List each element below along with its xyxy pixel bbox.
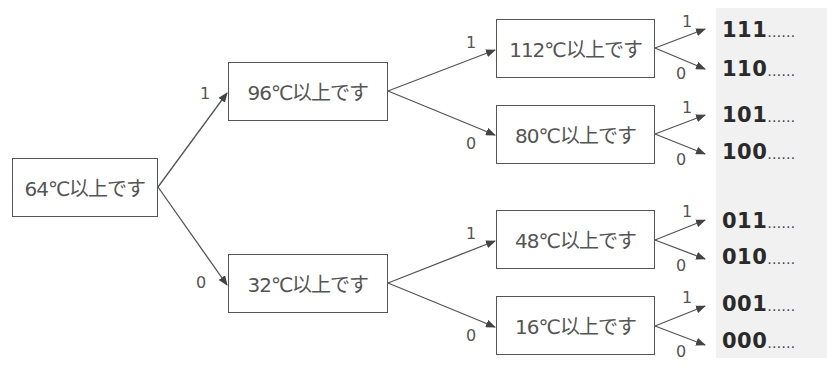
code-100: 100…… (722, 142, 795, 163)
edge-32-16 (388, 283, 495, 327)
edge-label-leaf-101: 1 (682, 98, 692, 117)
edge-32-48 (388, 241, 495, 283)
edge-label-leaf-011: 1 (682, 202, 692, 221)
edge-label-leaf-010: 0 (676, 256, 686, 275)
code-111: 111…… (722, 20, 795, 41)
code-010: 010…… (722, 247, 795, 268)
node-112: 112℃以上です (496, 19, 655, 78)
node-48: 48℃以上です (496, 210, 655, 269)
node-root-64: 64℃以上です (12, 158, 158, 217)
node-80: 80℃以上です (496, 105, 655, 164)
edge-80-101 (655, 115, 705, 134)
code-101: 101…… (722, 105, 795, 126)
edge-label-16: 0 (466, 326, 476, 345)
code-011: 011…… (722, 211, 795, 232)
edge-label-80: 0 (466, 134, 476, 153)
edge-label-leaf-100: 0 (676, 150, 686, 169)
edge-96-112 (388, 50, 495, 91)
code-000: 000…… (722, 331, 795, 352)
edge-112-111 (655, 29, 705, 48)
node-16: 16℃以上です (496, 296, 655, 355)
edge-64-32 (158, 187, 227, 285)
edge-48-011 (655, 220, 705, 240)
node-32: 32℃以上です (228, 254, 388, 313)
edge-label-leaf-001: 1 (682, 288, 692, 307)
code-001: 001…… (722, 294, 795, 315)
edge-label-leaf-110: 0 (676, 64, 686, 83)
edge-label-96: 1 (200, 84, 210, 103)
edge-64-96 (158, 93, 227, 187)
edge-16-001 (655, 306, 705, 326)
edge-label-leaf-000: 0 (676, 342, 686, 361)
node-96: 96℃以上です (228, 62, 388, 121)
edge-label-32: 0 (196, 273, 206, 292)
edge-label-48: 1 (466, 224, 476, 243)
code-110: 110…… (722, 59, 795, 80)
edge-label-leaf-111: 1 (682, 12, 692, 31)
edge-label-112: 1 (466, 33, 476, 52)
edge-96-80 (388, 91, 495, 135)
